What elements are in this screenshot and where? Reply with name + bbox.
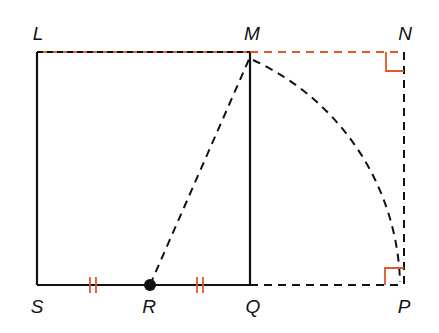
arc-MP: [253, 60, 400, 282]
diagram-canvas: [0, 0, 439, 333]
label-P: P: [398, 297, 411, 316]
geometry-diagram: L M N S R Q P: [0, 0, 439, 333]
point-R: [144, 279, 156, 291]
label-Q: Q: [246, 297, 261, 316]
label-N: N: [398, 24, 412, 43]
right-angle-P: [385, 268, 404, 285]
label-R: R: [142, 297, 156, 316]
segment-RM: [150, 57, 250, 285]
label-M: M: [244, 24, 260, 43]
right-angle-N: [386, 52, 404, 71]
label-L: L: [33, 24, 44, 43]
label-S: S: [31, 297, 44, 316]
